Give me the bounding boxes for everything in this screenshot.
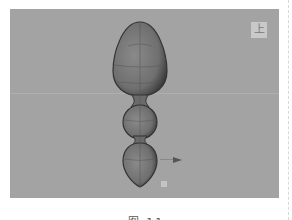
egg-model[interactable] [10, 9, 279, 198]
3d-viewport[interactable]: 上 [10, 9, 279, 198]
page-scrollbar[interactable] [288, 0, 292, 220]
x-axis-arrow-icon[interactable] [173, 157, 182, 163]
view-cube-top-label[interactable]: 上 [251, 22, 267, 38]
pivot-square-icon[interactable] [161, 181, 167, 187]
x-axis-line [160, 159, 174, 160]
figure-caption: 图 11 [0, 213, 292, 220]
